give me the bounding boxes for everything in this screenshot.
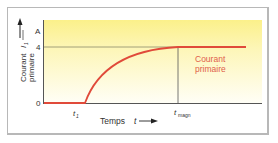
y-axis-label-line2: primaire bbox=[27, 53, 36, 82]
unit-label: A bbox=[35, 27, 41, 36]
tick-0: 0 bbox=[36, 99, 41, 108]
tmagn-label: t bbox=[174, 108, 177, 117]
plot-background bbox=[44, 20, 262, 103]
curve-label-line2: primaire bbox=[195, 64, 226, 74]
y-symbol-sub: 1 bbox=[23, 42, 29, 45]
x-symbol: t bbox=[134, 116, 137, 126]
curve-label-line1: Courant bbox=[195, 54, 226, 64]
t1-sub: 1 bbox=[76, 113, 79, 119]
tmagn-sub: magn bbox=[178, 112, 191, 118]
tick-4: 4 bbox=[36, 43, 41, 52]
x-arrowhead-icon bbox=[151, 119, 158, 124]
current-chart: Courant primaire I 1 A 4 0 t 1 t magn Te… bbox=[0, 0, 278, 143]
y-arrowhead-icon bbox=[18, 18, 23, 25]
x-axis-label: Temps bbox=[100, 116, 125, 126]
